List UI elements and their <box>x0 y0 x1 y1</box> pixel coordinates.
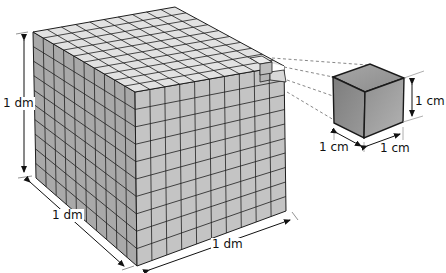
big-cube <box>33 7 286 266</box>
small-cube-height-label: 1 cm <box>414 95 446 108</box>
small-cube <box>333 64 404 138</box>
big-cube-width-label: 1 dm <box>211 238 244 251</box>
big-cube-height-label: 1 dm <box>2 97 35 110</box>
cube-diagram <box>0 0 446 273</box>
small-cube-width-label: 1 cm <box>379 142 411 155</box>
small-cube-depth-label: 1 cm <box>318 141 350 154</box>
big-cube-depth-label: 1 dm <box>51 209 84 222</box>
